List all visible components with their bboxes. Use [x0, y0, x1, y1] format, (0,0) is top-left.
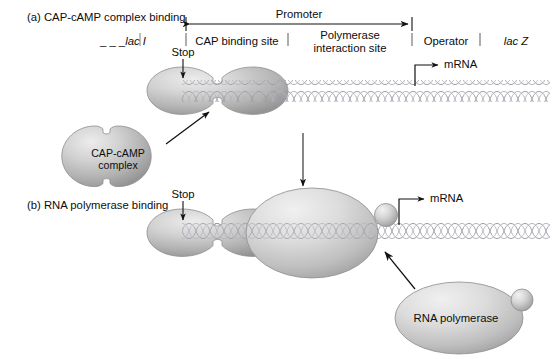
- polymerase-interaction-site-label: Polymerase interaction site: [314, 29, 387, 54]
- dna-over-cap-a: [182, 80, 288, 102]
- mrna-label-b: mRNA: [430, 192, 463, 205]
- stop-label-a: Stop: [171, 46, 194, 59]
- polymerase-site-line1: Polymerase: [314, 29, 387, 42]
- mrna-label-a: mRNA: [444, 58, 477, 71]
- promoter-label: Promoter: [276, 8, 322, 21]
- sigma-subunit-bound: [375, 204, 398, 227]
- figure-canvas: (a) CAP-cAMP complex binding (b) RNA pol…: [0, 0, 555, 359]
- panel-a-title: (a) CAP-cAMP complex binding: [27, 11, 186, 24]
- lac-z-label: lac Z: [504, 35, 528, 48]
- panel-b-title: (b) RNA polymerase binding: [27, 199, 168, 212]
- arrow-polymerase-binds: [385, 252, 415, 289]
- diagram-graphics: [0, 0, 555, 359]
- operator-label: Operator: [424, 35, 469, 48]
- cap-camp-complex-label: CAP-cAMP complex: [91, 148, 145, 172]
- sigma-subunit-free: [511, 289, 533, 311]
- lac-i-region: _ _ _lac I: [100, 35, 146, 48]
- cap-binding-site-label: CAP binding site: [195, 35, 278, 48]
- stop-label-b: Stop: [171, 188, 194, 201]
- cap-camp-line2: complex: [91, 160, 145, 172]
- polymerase-site-line2: interaction site: [314, 42, 387, 55]
- arrow-cap-binds: [166, 112, 209, 144]
- lac-i-dashes: _ _ _: [100, 35, 125, 47]
- lac-i-label: lac I: [125, 35, 146, 47]
- dna-over-rnap: [248, 222, 376, 244]
- arrow-mrna-b: [399, 199, 424, 225]
- rna-polymerase-label: RNA polymerase: [414, 312, 499, 325]
